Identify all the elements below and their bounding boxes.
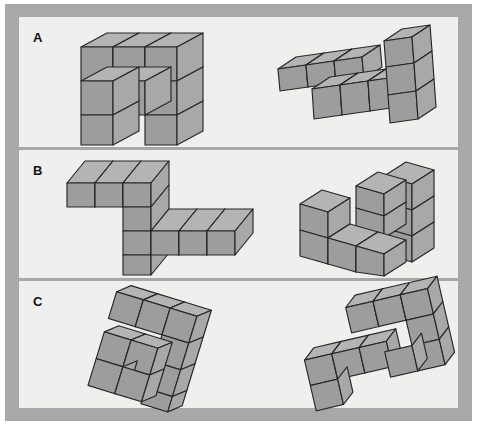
cube-figure-b-left (59, 155, 259, 277)
cube-figure-b-right (294, 158, 464, 276)
figure-row-b: B (19, 150, 458, 278)
cube-figure-c-left (81, 285, 241, 407)
row-label-b: B (33, 164, 43, 177)
row-label-c: C (33, 295, 43, 308)
figure-row-c: C (19, 281, 458, 408)
cube-figure-a-right (274, 29, 454, 144)
screenshot-root: A (0, 0, 478, 430)
figure-row-a: A (19, 17, 458, 147)
cube-figure-c-right (297, 285, 462, 407)
figure-canvas: A (19, 17, 458, 408)
row-label-a: A (33, 31, 43, 44)
cube-figure-a-left (67, 19, 247, 147)
outer-frame: A (5, 4, 472, 421)
